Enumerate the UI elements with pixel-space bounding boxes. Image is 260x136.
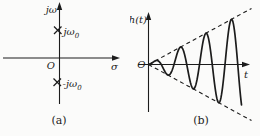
lower-envelope-dashed-line xyxy=(149,65,252,121)
origin-label-b: O xyxy=(137,59,145,70)
pole-label-lower: -jω0 xyxy=(63,78,83,92)
real-axis-arrow-icon xyxy=(112,55,120,60)
s-plane-panel: jω σ O jω0 -jω0 (a) xyxy=(0,0,130,136)
t-axis-label: t xyxy=(244,69,249,80)
figure-pole-zero-and-impulse-response: jω σ O jω0 -jω0 (a) h(t) t O (b) xyxy=(0,0,260,136)
ht-axis-label: h(t) xyxy=(130,14,147,25)
imaginary-axis-arrow-icon xyxy=(57,2,62,10)
t-axis-arrow-icon xyxy=(242,62,250,67)
pole-marker-upper-icon xyxy=(54,27,62,35)
growing-oscillation-curve xyxy=(149,19,242,105)
caption-b: (b) xyxy=(193,114,209,127)
sigma-axis-label: σ xyxy=(111,61,119,72)
pole-label-upper: jω0 xyxy=(62,26,80,40)
jw-axis-label: jω xyxy=(44,4,57,15)
caption-a: (a) xyxy=(51,114,66,127)
origin-label-a: O xyxy=(47,60,55,71)
impulse-response-panel: h(t) t O (b) xyxy=(130,0,260,136)
